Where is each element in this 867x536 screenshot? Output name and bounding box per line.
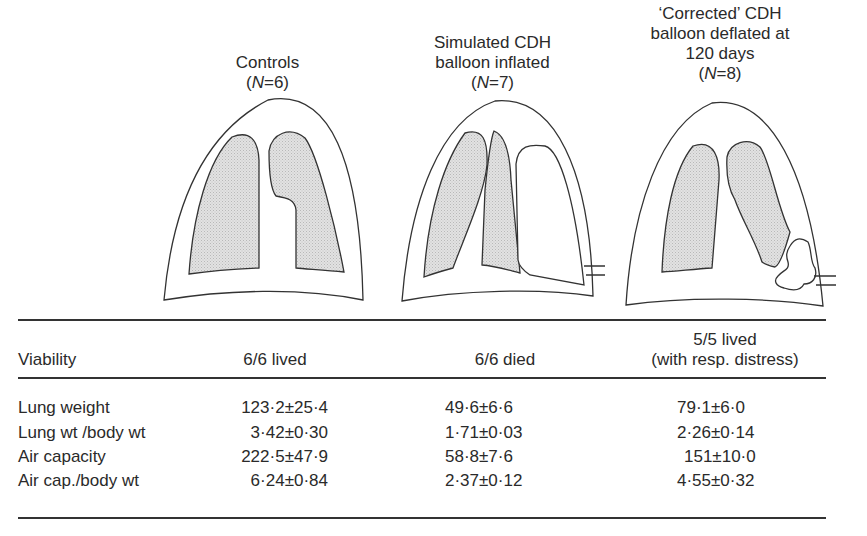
left-lung: [662, 144, 719, 272]
table-bottom-rule: [18, 517, 826, 519]
viability-controls: 6/6 lived: [205, 350, 345, 370]
value-corrected-cdh: 4·55±0·32: [677, 471, 754, 491]
inflated-balloon: [516, 145, 584, 285]
balloon-catheter: [814, 276, 836, 285]
value-controls: 123·2±25·4: [208, 398, 328, 418]
value-controls: 6·24±0·84: [208, 471, 328, 491]
left-lung: [424, 132, 487, 277]
balloon-catheter: [584, 266, 605, 275]
value-controls: 3·42±0·30: [208, 423, 328, 443]
value-simulated-cdh: 2·37±0·12: [445, 471, 522, 491]
viability-corrected-cdh: 5/5 lived (with resp. distress): [625, 330, 825, 370]
row-label: Lung wt /body wt: [18, 423, 146, 443]
row-label: Lung weight: [18, 398, 110, 418]
value-simulated-cdh: 49·6±6·6: [445, 398, 513, 418]
value-corrected-cdh: 151±10·0: [684, 447, 756, 467]
value-corrected-cdh: 79·1±6·0: [677, 398, 745, 418]
value-simulated-cdh: 1·71±0·03: [445, 423, 522, 443]
controls-thorax-diagram: [164, 99, 363, 300]
viability-line: (with resp. distress): [625, 350, 825, 370]
row-label: Air capacity: [18, 447, 106, 467]
viability-label: Viability: [18, 350, 76, 370]
value-corrected-cdh: 2·26±0·14: [677, 423, 754, 443]
compressed-right-lung: [482, 131, 520, 273]
right-lung: [727, 142, 790, 267]
value-simulated-cdh: 58·8±7·6: [445, 447, 513, 467]
thorax-diagrams: [0, 0, 867, 320]
row-label: Air cap./body wt: [18, 471, 139, 491]
simulated-cdh-thorax-diagram: [402, 101, 605, 301]
header-rule: [18, 377, 826, 379]
value-controls: 222·5±47·9: [208, 447, 328, 467]
viability-simulated-cdh: 6/6 died: [440, 350, 570, 370]
viability-line: 5/5 lived: [625, 330, 825, 350]
corrected-cdh-thorax-diagram: [626, 102, 836, 306]
right-lung: [269, 132, 344, 272]
left-lung: [189, 135, 259, 274]
table-top-rule: [18, 319, 826, 321]
